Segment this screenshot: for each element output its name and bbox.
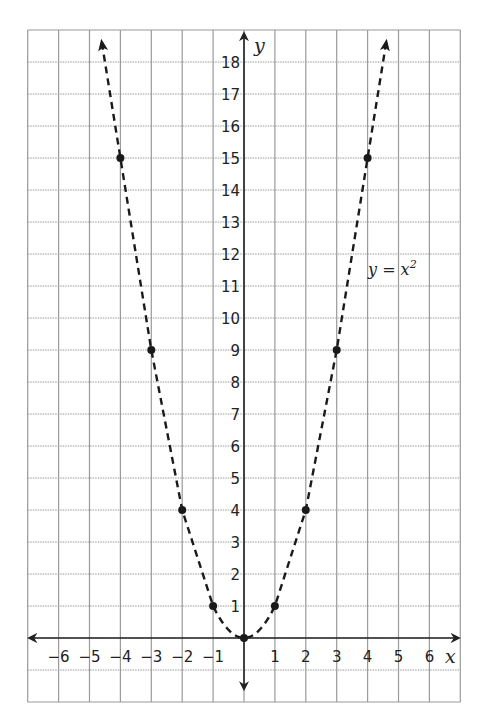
- y-tick-label: 1: [230, 598, 240, 616]
- data-point: [116, 154, 124, 162]
- y-tick-label: 11: [221, 278, 240, 296]
- x-tick-label: 6: [425, 648, 435, 666]
- x-tick-label: −5: [78, 648, 100, 666]
- y-tick-label: 6: [230, 438, 240, 456]
- data-point: [333, 346, 341, 354]
- y-tick-label: 3: [230, 534, 240, 552]
- data-point: [209, 602, 217, 610]
- parabola-chart: −6−5−4−3−2−11234561234567891011121314151…: [0, 0, 483, 724]
- y-tick-label: 5: [230, 470, 240, 488]
- y-tick-label: 13: [221, 214, 240, 232]
- y-tick-label: 7: [230, 406, 240, 424]
- x-tick-label: 5: [394, 648, 404, 666]
- equation-exponent: 2: [409, 258, 417, 271]
- y-tick-label: 2: [230, 566, 240, 584]
- axes: [29, 33, 459, 689]
- x-tick-label: −2: [171, 648, 193, 666]
- data-point: [240, 634, 248, 642]
- y-tick-label: 4: [230, 502, 240, 520]
- y-tick-label: 10: [221, 310, 240, 328]
- data-point: [147, 346, 155, 354]
- y-tick-label: 16: [221, 118, 240, 136]
- x-tick-label: 4: [363, 648, 373, 666]
- data-point: [271, 602, 279, 610]
- x-tick-label: −1: [202, 648, 224, 666]
- y-tick-label: 18: [221, 54, 240, 72]
- equation-text: y = x: [367, 260, 410, 279]
- x-tick-label: −4: [109, 648, 131, 666]
- y-axis-label: y: [253, 34, 265, 56]
- x-tick-label: −6: [48, 648, 70, 666]
- equation-label: y = x2: [367, 258, 417, 279]
- x-tick-label: 2: [301, 648, 311, 666]
- y-tick-label: 15: [221, 150, 240, 168]
- y-tick-label: 17: [221, 86, 240, 104]
- x-tick-label: −3: [140, 648, 162, 666]
- data-point: [178, 506, 186, 514]
- data-point: [364, 154, 372, 162]
- y-tick-label: 9: [230, 342, 240, 360]
- data-point: [302, 506, 310, 514]
- x-tick-label: 3: [332, 648, 342, 666]
- y-tick-label: 12: [221, 246, 240, 264]
- x-tick-label: 1: [270, 648, 280, 666]
- x-axis-label: x: [445, 645, 456, 667]
- y-tick-label: 14: [221, 182, 240, 200]
- y-tick-label: 8: [230, 374, 240, 392]
